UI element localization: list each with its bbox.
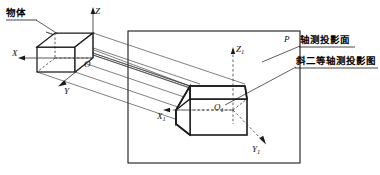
plane-letter-label: P	[284, 35, 290, 44]
image-z-subscript: 1	[241, 48, 244, 55]
image-origin-subscript: 1	[221, 106, 224, 113]
image-x-letter: X	[157, 111, 163, 121]
object-y-label: Y	[64, 87, 69, 96]
image-origin-label: O1	[214, 103, 224, 112]
image-y-label: Y1	[252, 145, 260, 154]
object-x-arrowhead	[18, 56, 25, 61]
image-z-label: Z1	[236, 45, 244, 54]
image-origin-letter: O	[214, 102, 221, 112]
image-x-label: X1	[157, 112, 166, 121]
object-origin-label: O	[84, 60, 91, 69]
image-top-face	[190, 86, 247, 99]
object-label: 物体	[6, 8, 26, 18]
object-leader-line	[36, 20, 58, 34]
image-y-subscript: 1	[257, 148, 260, 155]
object-x-label: X	[12, 49, 18, 58]
projection-drawing-label: 斜二等轴测投影图	[296, 56, 376, 66]
projection-plane-label: 轴测投影面	[300, 35, 350, 45]
object-front-face	[37, 47, 75, 72]
projection-diagram	[0, 0, 380, 175]
image-x-subscript: 1	[163, 115, 166, 122]
object-z-label: Z	[95, 7, 100, 16]
figure-canvas: 物体 轴测投影面 斜二等轴测投影图 P Z X Y O Z1 X1 Y1 O1	[0, 0, 380, 175]
image-cuboid	[176, 86, 247, 135]
